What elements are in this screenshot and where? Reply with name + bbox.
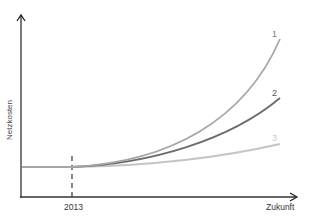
netzkosten-diagram: 1 2 3 Netzkosten 2013 Zukunft: [0, 0, 320, 223]
x-tick-2013: 2013: [64, 202, 83, 212]
curve-1: [22, 39, 280, 167]
curve-2: [22, 98, 280, 167]
y-axis-label: Netzkosten: [5, 100, 14, 140]
curve-3: [22, 144, 280, 167]
curve-2-label: 2: [272, 88, 277, 98]
curve-3-label: 3: [272, 133, 277, 143]
x-axis-label: Zukunft: [266, 202, 295, 212]
curve-1-label: 1: [272, 29, 277, 39]
